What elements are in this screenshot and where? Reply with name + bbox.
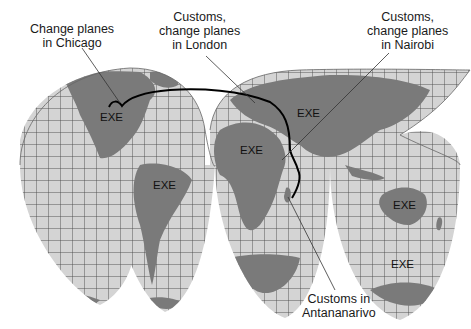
callout-chicago: Change planes in Chicago [30,22,114,50]
label-asia: EXE [297,107,320,119]
label-australia: EXE [393,199,416,211]
callout-london: Customs, change planes in London [159,10,240,52]
label-north-america: EXE [100,111,123,123]
callout-antananarivo: Customs in Antananarivo [302,292,376,320]
callout-nairobi: Customs, change planes in Nairobi [367,10,448,52]
label-africa: EXE [240,144,263,156]
label-antarctica: EXE [391,258,414,270]
label-south-america: EXE [153,179,176,191]
